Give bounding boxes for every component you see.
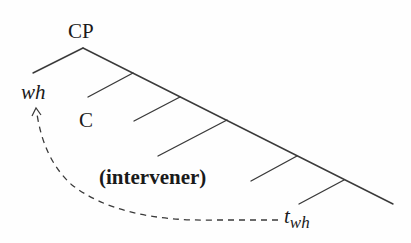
- branch-arm-2: [134, 97, 180, 121]
- branch-arm-5: [299, 180, 344, 204]
- branch-to-c: [88, 73, 133, 97]
- branch-to-wh: [33, 48, 83, 73]
- c-label: C: [79, 108, 93, 132]
- cp-root-label: CP: [68, 19, 94, 43]
- wh-label: wh: [21, 80, 46, 104]
- trace-subscript: wh: [290, 213, 310, 232]
- intervener-label: (intervener): [99, 165, 206, 189]
- branch-to-intervener: [158, 120, 227, 156]
- branch-arm-4: [251, 156, 297, 181]
- syntax-tree-diagram: CP wh C (intervener) twh: [0, 0, 411, 243]
- arrowhead-icon: [32, 108, 41, 116]
- trace-label: twh: [284, 204, 310, 232]
- tree-svg: CP wh C (intervener) twh: [0, 0, 411, 243]
